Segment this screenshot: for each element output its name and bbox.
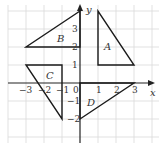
origin-label: 0	[73, 85, 79, 95]
shape-label-a: A	[103, 41, 111, 52]
x-tick-label: −2	[38, 85, 51, 95]
coordinate-grid-diagram: y x A B C D −3 −2 −1 0 1 2 3 3 2 1 −1 −2	[0, 0, 159, 143]
y-tick-label: −1	[67, 96, 80, 106]
x-axis-label: x	[150, 87, 156, 98]
shape-label-d: D	[86, 97, 95, 108]
y-axis-arrow-icon	[77, 4, 83, 11]
shape-label-b: B	[56, 33, 64, 44]
x-tick-label: −3	[19, 85, 33, 95]
x-tick-label: 3	[132, 85, 138, 95]
shape-label-c: C	[46, 70, 54, 81]
x-tick-label: 2	[114, 85, 120, 95]
y-tick-label: 2	[72, 42, 78, 52]
x-axis-arrow-icon	[148, 80, 155, 86]
y-tick-label: 3	[72, 24, 78, 34]
y-axis-label: y	[85, 4, 92, 15]
y-tick-label: 1	[72, 60, 78, 70]
x-tick-label: 1	[96, 85, 102, 95]
x-tick-label: −1	[56, 85, 69, 95]
y-tick-label: −2	[67, 114, 80, 124]
grid-lines	[8, 5, 159, 143]
